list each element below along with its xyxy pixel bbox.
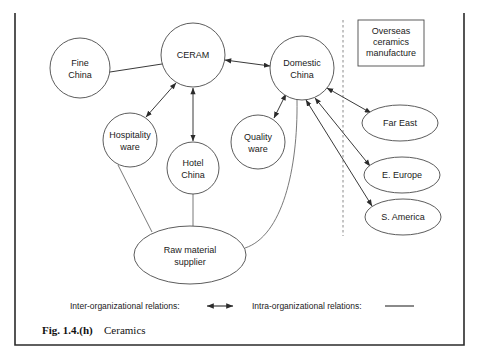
overseas-ceramics-manufacture-box[interactable]: Overseas ceramics manufacture <box>358 20 424 66</box>
node-hotel-china-label-line2: China <box>181 170 205 180</box>
legend: Inter-organizational relations: Intra-or… <box>70 301 414 311</box>
node-fine-china[interactable]: Fine China <box>50 38 110 98</box>
overseas-box-label-line2: ceramics <box>373 37 410 47</box>
node-quality-ware-label-line2: ware <box>247 144 268 154</box>
legend-intra-label: Intra-organizational relations: <box>252 301 362 311</box>
node-ceram[interactable]: CERAM <box>161 23 225 87</box>
edge-raw-material-hospitality-ware <box>118 165 152 232</box>
legend-inter-label: Inter-organizational relations: <box>70 301 180 311</box>
node-domestic-china-label-line1: Domestic <box>283 58 321 68</box>
figure-caption: Fig. 1.4.(h) Ceramics <box>42 324 146 337</box>
edge-ceram-fine-china <box>110 64 162 72</box>
node-ceram-label-line1: CERAM <box>177 50 210 60</box>
node-domestic-china-label-line2: China <box>290 70 314 80</box>
edge-domestic-china-quality-ware <box>274 94 286 118</box>
caption-title: Ceramics <box>104 324 146 336</box>
node-hospitality-ware-label-line1: Hospitality <box>109 130 151 140</box>
ceramics-network-diagram: Fine China CERAM Domestic China Hospital… <box>0 0 484 361</box>
node-hospitality-ware[interactable]: Hospitality ware <box>103 113 157 167</box>
diagram-nodes: Fine China CERAM Domestic China Hospital… <box>50 20 441 284</box>
node-fine-china-label-line1: Fine <box>71 58 89 68</box>
node-raw-material-supplier-label-line1: Raw material <box>164 245 217 255</box>
node-raw-material-supplier-label-line2: supplier <box>174 257 206 267</box>
figure-page: Fine China CERAM Domestic China Hospital… <box>0 0 484 361</box>
node-domestic-china[interactable]: Domestic China <box>270 36 334 100</box>
node-e-europe-label: E. Europe <box>382 170 422 180</box>
node-s-america[interactable]: S. America <box>365 199 441 235</box>
overseas-box-label-line3: manufacture <box>366 48 416 58</box>
edge-ceram-domestic-china <box>225 60 270 66</box>
node-hospitality-ware-label-line2: ware <box>119 142 140 152</box>
caption-label: Fig. 1.4.(h) <box>42 324 93 337</box>
node-hotel-china[interactable]: Hotel China <box>167 142 219 194</box>
node-raw-material-supplier[interactable]: Raw material supplier <box>134 226 246 284</box>
node-quality-ware[interactable]: Quality ware <box>231 115 285 169</box>
edge-ceram-hospitality-ware <box>146 83 176 117</box>
overseas-box-label-line1: Overseas <box>372 26 411 36</box>
edge-far-east-domestic-china <box>327 88 371 113</box>
node-far-east[interactable]: Far East <box>362 105 438 141</box>
node-quality-ware-label-line1: Quality <box>244 132 273 142</box>
node-hotel-china-label-line1: Hotel <box>182 158 203 168</box>
node-e-europe[interactable]: E. Europe <box>364 157 440 193</box>
edge-s-america-domestic-china <box>306 100 372 206</box>
node-fine-china-label-line2: China <box>68 70 92 80</box>
node-s-america-label: S. America <box>381 212 425 222</box>
node-far-east-label: Far East <box>383 118 418 128</box>
